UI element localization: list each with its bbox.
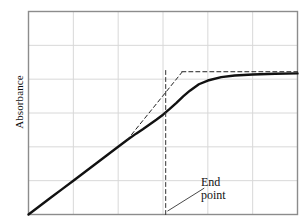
y-axis-label: Absorbance — [13, 47, 25, 157]
titration-curve-figure: Absorbance End point — [0, 0, 304, 224]
chart-canvas — [0, 0, 304, 224]
end-point-label-line2: point — [201, 189, 226, 202]
annotation-leader-line — [167, 188, 204, 211]
end-point-annotation-leader — [167, 188, 204, 211]
end-point-annotation: End point — [201, 176, 226, 202]
